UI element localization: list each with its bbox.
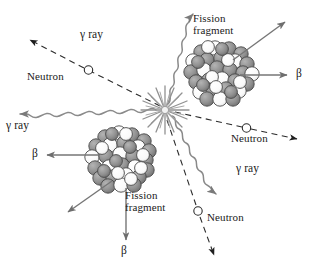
neutron-circle-bottom — [194, 207, 202, 215]
arrow-bottom-fragment-recoil — [68, 181, 112, 212]
emission-neutron-bottom — [167, 120, 214, 255]
label-neutron-upper-left: Neutron — [27, 71, 64, 83]
label-gamma-ray-left: γ ray — [6, 120, 29, 132]
emission-gamma-left — [20, 108, 156, 117]
neutron-circle-right — [242, 124, 250, 132]
label-beta-right: β — [296, 68, 302, 80]
fission-fragment-bottom-nucleus — [85, 126, 156, 193]
label-beta-bottom: β — [121, 245, 127, 257]
fission-fragment-top-nucleus — [184, 41, 259, 107]
fission-burst-icon — [141, 86, 189, 134]
label-gamma-ray-top: γ ray — [80, 29, 103, 41]
label-gamma-ray-right: γ ray — [236, 163, 259, 175]
label-fission-fragment-bottom: Fission fragment — [125, 190, 166, 214]
arrow-top-fragment-recoil — [233, 22, 285, 60]
label-beta-left: β — [32, 148, 38, 160]
neutron-circle-upper-left — [84, 66, 92, 74]
label-neutron-bottom: Neutron — [207, 212, 244, 224]
label-fission-fragment-top: Fission fragment — [193, 13, 234, 37]
nuclear-fission-diagram: Fission fragment Fission fragment γ ray … — [0, 0, 314, 267]
label-neutron-right: Neutron — [231, 133, 268, 145]
